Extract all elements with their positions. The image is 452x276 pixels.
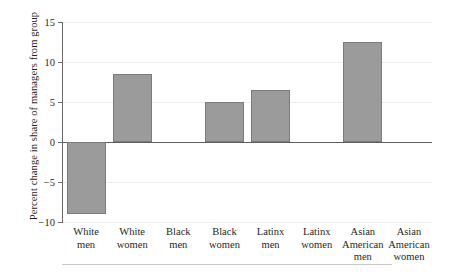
- y-axis-tick-label: 10: [45, 57, 56, 68]
- y-axis-tick: [58, 222, 63, 223]
- x-axis-label: Latinx women: [294, 226, 340, 251]
- x-axis-label: Black women: [201, 226, 247, 251]
- y-axis-spine: [62, 22, 63, 222]
- x-axis-label: White men: [63, 226, 109, 251]
- y-axis-tick-label: 15: [45, 17, 56, 28]
- y-axis-tick: [58, 182, 63, 183]
- bar: [113, 74, 152, 142]
- y-axis-tick: [58, 62, 63, 63]
- y-axis-tick-label: −5: [44, 177, 55, 188]
- zero-baseline: [63, 142, 432, 143]
- y-axis-tick-label: 0: [50, 137, 55, 148]
- plot-area: 151050−5−10 White menWhite womenBlack me…: [63, 22, 432, 222]
- x-axis-label: White women: [109, 226, 155, 251]
- bottom-rule: [62, 264, 392, 265]
- bar: [67, 142, 106, 214]
- bar: [251, 90, 290, 142]
- gridline: [63, 222, 432, 223]
- bar: [343, 42, 382, 142]
- y-axis-tick: [58, 102, 63, 103]
- x-axis-label: Asian American women: [386, 226, 432, 264]
- gridline: [63, 22, 432, 23]
- x-axis-label: Latinx men: [248, 226, 294, 251]
- x-axis-label: Black men: [155, 226, 201, 251]
- y-axis-tick-label: −10: [39, 217, 55, 228]
- y-axis-tick: [58, 22, 63, 23]
- y-axis-tick-label: 5: [50, 97, 55, 108]
- y-axis-title: Percent change in share of managers from…: [26, 0, 42, 232]
- x-axis-label: Asian American men: [340, 226, 386, 264]
- bar: [205, 102, 244, 142]
- gridline: [63, 182, 432, 183]
- bar-chart-figure: Percent change in share of managers from…: [0, 0, 452, 276]
